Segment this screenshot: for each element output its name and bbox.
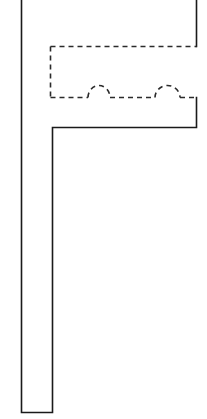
plan-drawing-svg [0, 0, 207, 419]
fixture-arc-two [155, 86, 180, 98]
plan-drawing-canvas [0, 0, 207, 419]
fixture-arc-one [88, 86, 110, 98]
wall-outline [22, 0, 197, 413]
